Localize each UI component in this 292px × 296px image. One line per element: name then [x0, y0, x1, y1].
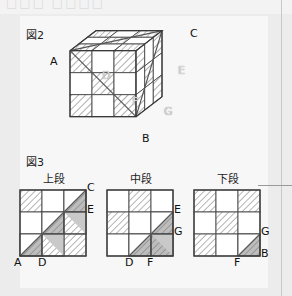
tier-upper-label-A: A: [14, 257, 22, 268]
cube-vertex-label-B: B: [142, 133, 150, 144]
tier-middle-label-E: E: [174, 204, 181, 215]
tier-title-middle: 中段: [105, 170, 177, 186]
cube-vertex-label-D: D: [102, 70, 110, 81]
tier-upper-label-E: E: [87, 204, 94, 215]
cube-vertex-label-G: G: [164, 106, 173, 117]
figure2-cube-diagram: [60, 28, 210, 148]
ghost-header-text: □□□ □□□□: [6, 0, 105, 10]
tier-title-upper: 上段: [18, 170, 90, 186]
cube-vertex-label-A: A: [50, 56, 58, 67]
tier-lower-label-G: G: [261, 226, 270, 237]
tier-title-lower: 下段: [192, 170, 264, 186]
right-margin-rule: [281, 0, 282, 296]
cube-vertex-label-F: F: [132, 96, 138, 107]
tier-upper-label-D: D: [38, 257, 46, 268]
tier-middle-label-D: D: [125, 257, 133, 268]
figure3-label: 図3: [26, 153, 44, 169]
page-top-strip: □□□ □□□□: [0, 0, 292, 14]
tier-middle-label-G: G: [174, 226, 183, 237]
tier-middle-label-F: F: [147, 257, 153, 268]
tier-upper-label-C: C: [87, 182, 95, 193]
cube-vertex-label-E: E: [178, 65, 185, 76]
figure2-label: 図2: [26, 26, 44, 42]
tier-lower-label-B: B: [261, 248, 269, 259]
tier-lower-label-F: F: [234, 257, 240, 268]
cube-vertex-label-C: C: [190, 28, 198, 39]
